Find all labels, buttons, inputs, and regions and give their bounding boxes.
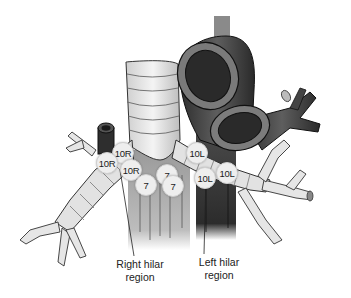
node-station-10l: 10L	[194, 167, 216, 189]
trachea	[126, 61, 180, 160]
node-station-7: 7	[135, 174, 157, 196]
left-hilar-caption: Left hilar region	[192, 256, 246, 282]
node-station-10r: 10R	[96, 152, 118, 174]
illustration-svg	[0, 0, 351, 298]
left-hilar-caption-line2: region	[192, 269, 246, 282]
node-station-10l: 10L	[216, 162, 238, 184]
right-hilar-caption-line1: Right hilar	[110, 258, 170, 271]
node-station-10l: 10L	[186, 142, 208, 164]
left-hilar-caption-line1: Left hilar	[192, 256, 246, 269]
anatomy-illustration: 10R 10R 10R 7 7 7 10L 10L 10L Right hila…	[0, 0, 351, 298]
node-station-7: 7	[162, 175, 184, 197]
right-hilar-caption-line2: region	[110, 271, 170, 284]
right-hilar-caption: Right hilar region	[110, 258, 170, 284]
